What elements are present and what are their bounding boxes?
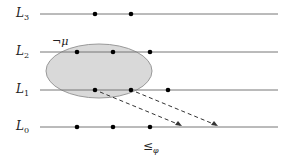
level-label-1: L1: [16, 83, 29, 98]
neg-mu-label: ¬μ: [52, 36, 68, 47]
level-label-3: L3: [16, 7, 29, 22]
diagram: [0, 0, 293, 160]
level-label-0: L0: [16, 120, 29, 135]
arrow-heads: [175, 121, 218, 126]
order-label: ≤φ: [143, 140, 159, 155]
dashed-arrows: [100, 92, 216, 125]
level-label-2: L2: [16, 45, 29, 60]
